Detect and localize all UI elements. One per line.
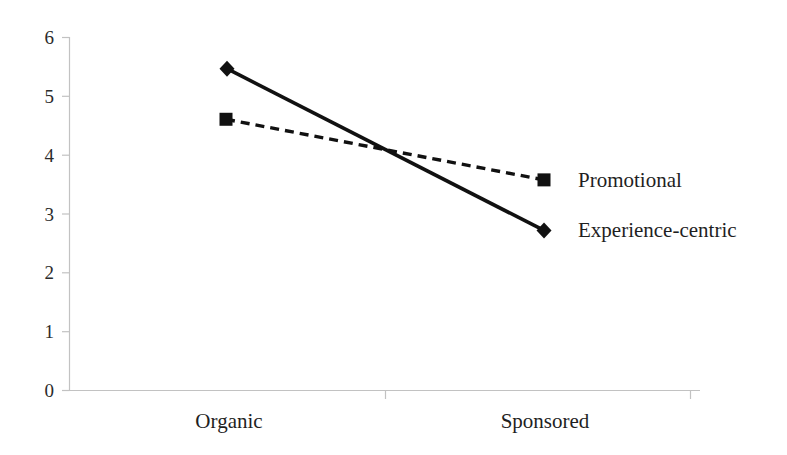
experience-centric-line [227,69,544,231]
legend-label-experience-centric: Experience-centric [578,220,737,241]
experience-centric-marker-sponsored [537,222,552,238]
series-experience-centric [220,61,552,239]
promotional-marker-sponsored [538,173,551,186]
y-tick-label-2: 2 [28,263,54,282]
y-tick-label-5: 5 [28,87,54,106]
y-tick-label-4: 4 [28,146,54,165]
x-category-label-sponsored: Sponsored [501,411,590,432]
x-category-label-organic: Organic [195,411,262,432]
y-tick-label-1: 1 [28,322,54,341]
promotional-marker-organic [220,113,233,126]
x-axis-ticks [386,391,691,400]
legend-label-promotional: Promotional [578,170,682,191]
y-axis-ticks [62,38,70,391]
line-chart: 6 5 4 3 2 1 0 Organic Sponsored Promotio… [0,0,787,455]
y-tick-label-3: 3 [28,205,54,224]
experience-centric-marker-organic [220,61,235,77]
y-tick-label-0: 0 [28,381,54,400]
y-tick-label-6: 6 [28,28,54,47]
